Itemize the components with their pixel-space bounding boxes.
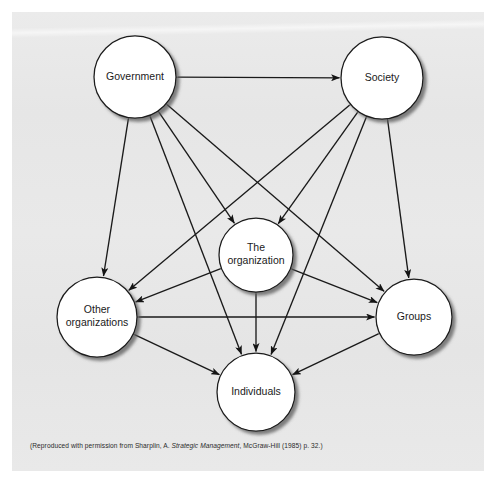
node-groups[interactable]: Groups xyxy=(376,279,452,355)
node-society[interactable]: Society xyxy=(341,37,423,119)
edge-government-society xyxy=(178,77,340,78)
node-label-individuals: Individuals xyxy=(231,385,281,397)
edge-society-groups xyxy=(388,120,409,278)
node-label-groups: Groups xyxy=(397,310,431,322)
node-label-the-organization: The xyxy=(247,241,265,253)
edge-government-other-organizations xyxy=(103,119,128,276)
caption-suffix: , McGraw-Hill (1985) p. 32.) xyxy=(239,442,322,449)
node-label-government: Government xyxy=(106,70,164,82)
edge-groups-individuals xyxy=(293,334,379,375)
caption-italic-title: Strategic Management xyxy=(171,442,239,449)
figure-container: GovernmentSocietyTheorganizationOtherorg… xyxy=(0,0,498,491)
caption-prefix: (Reproduced with permission from Sharpli… xyxy=(30,442,171,449)
node-label-society: Society xyxy=(365,71,400,83)
network-diagram: GovernmentSocietyTheorganizationOtherorg… xyxy=(0,0,498,491)
edge-other-organizations-individuals xyxy=(135,335,220,375)
node-other-organizations[interactable]: Otherorganizations xyxy=(57,277,137,357)
figure-caption: (Reproduced with permission from Sharpli… xyxy=(30,442,323,449)
nodes-layer: GovernmentSocietyTheorganizationOtherorg… xyxy=(57,36,452,431)
node-government[interactable]: Government xyxy=(94,36,176,118)
node-label-the-organization: organization xyxy=(227,254,284,266)
node-label-other-organizations: Other xyxy=(84,303,111,315)
node-individuals[interactable]: Individuals xyxy=(217,353,295,431)
node-label-other-organizations: organizations xyxy=(66,316,128,328)
node-the-organization[interactable]: Theorganization xyxy=(219,218,293,292)
